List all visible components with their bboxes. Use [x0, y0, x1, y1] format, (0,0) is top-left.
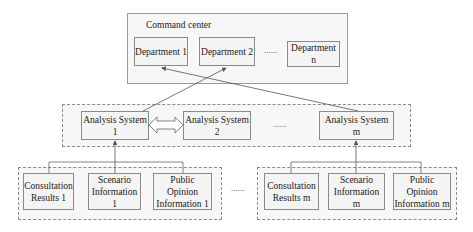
- connector-lines: [0, 0, 473, 232]
- group-1-bracket: [49, 162, 183, 173]
- bidirectional-arrow-icon: [149, 117, 183, 133]
- arrow-asm-to-dept1: [162, 68, 358, 111]
- arrow-as1-to-dept2: [143, 68, 226, 111]
